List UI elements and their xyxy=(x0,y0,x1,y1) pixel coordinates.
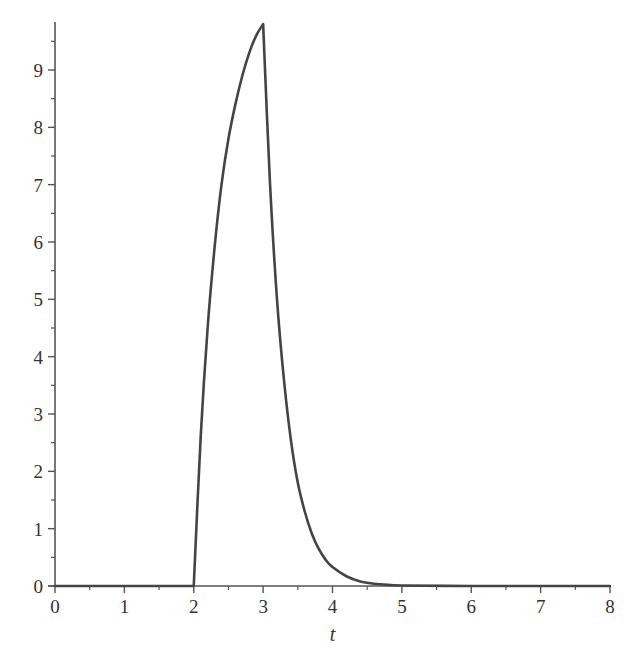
y-tick-label: 8 xyxy=(34,117,44,138)
y-tick-label: 6 xyxy=(34,232,44,253)
x-tick-label: 2 xyxy=(189,596,199,617)
x-tick-label: 3 xyxy=(258,596,268,617)
y-tick-label: 9 xyxy=(34,60,44,81)
x-tick-label: 0 xyxy=(50,596,60,617)
y-tick-label: 1 xyxy=(34,519,44,540)
y-tick-label: 5 xyxy=(34,289,44,310)
y-tick-label: 0 xyxy=(34,576,44,597)
x-tick-label: 1 xyxy=(120,596,130,617)
line-chart: 0123456789 012345678 t xyxy=(0,0,628,657)
x-axis-title: t xyxy=(330,623,336,645)
y-tick-label: 3 xyxy=(34,404,44,425)
x-axis: 012345678 xyxy=(48,586,615,617)
y-tick-label: 7 xyxy=(34,175,44,196)
x-tick-label: 4 xyxy=(328,596,338,617)
x-tick-label: 6 xyxy=(467,596,477,617)
x-tick-label: 8 xyxy=(605,596,615,617)
y-tick-label: 4 xyxy=(34,347,44,368)
data-line xyxy=(55,24,610,586)
plot-area xyxy=(55,24,610,586)
x-tick-label: 5 xyxy=(397,596,407,617)
x-tick-label: 7 xyxy=(536,596,546,617)
y-tick-label: 2 xyxy=(34,461,44,482)
y-axis: 0123456789 xyxy=(34,22,56,597)
